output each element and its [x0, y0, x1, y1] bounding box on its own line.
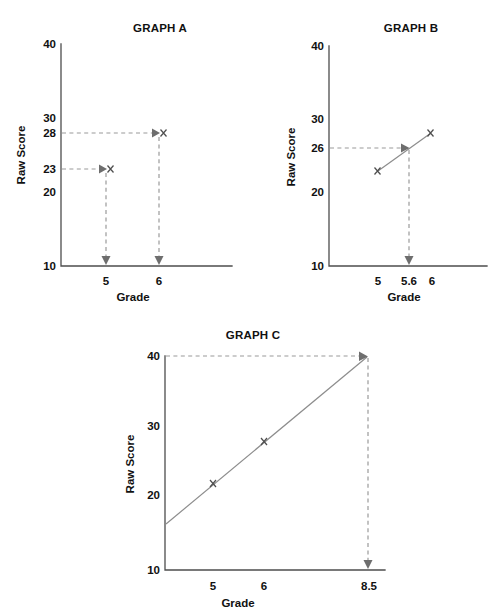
graph-a: GRAPH A Raw Score Grade 40 30 28 23 20 1…	[15, 22, 232, 303]
graph-b-marker-5-23	[375, 168, 381, 175]
graph-a-x-axis-title: Grade	[116, 291, 149, 303]
graph-a-ytick-40: 40	[43, 38, 56, 50]
graphs-canvas: GRAPH A Raw Score Grade 40 30 28 23 20 1…	[0, 0, 503, 616]
graph-c-ytick-20: 20	[147, 489, 160, 501]
graph-a-ytick-20: 20	[43, 186, 56, 198]
graph-b-ytick-40: 40	[311, 40, 324, 52]
graph-a-marker-5-23	[108, 166, 114, 173]
graph-c-y-axis-title: Raw Score	[124, 435, 136, 494]
graph-b-ytick-26: 26	[311, 142, 324, 154]
graph-b-y-axis-title: Raw Score	[285, 128, 297, 187]
graph-c-ytick-10: 10	[147, 564, 160, 576]
graph-c: GRAPH C Raw Score Grade 40 30 20 10 5 6 …	[124, 329, 385, 609]
graph-a-xtick-6: 6	[156, 275, 162, 287]
graph-b-xtick-5-6: 5.6	[401, 275, 417, 287]
graph-a-xtick-5: 5	[103, 275, 110, 287]
graph-b-xtick-5: 5	[375, 275, 382, 287]
graph-a-arrowhead-down-5	[102, 256, 111, 265]
graph-a-arrowhead-right-23	[99, 165, 107, 174]
figure-panel: GRAPH A Raw Score Grade 40 30 28 23 20 1…	[0, 0, 503, 616]
graph-a-ytick-23: 23	[43, 163, 56, 175]
graph-b-xtick-6: 6	[429, 275, 435, 287]
graph-b-arrowhead-down-5-6	[405, 256, 414, 265]
graph-c-x-axis-title: Grade	[221, 597, 254, 609]
graph-a-marker-6-28	[161, 130, 167, 137]
graph-a-arrowhead-right-28	[152, 129, 160, 138]
graph-c-title: GRAPH C	[226, 329, 280, 341]
graph-a-y-axis-title: Raw Score	[15, 126, 27, 185]
graph-c-trend-line	[166, 357, 367, 524]
graph-a-ytick-10: 10	[43, 260, 56, 272]
graph-b: GRAPH B Raw Score Grade 40 30 26 20 10 5…	[285, 22, 487, 303]
graph-b-trend-line	[378, 133, 431, 171]
graph-b-ytick-20: 20	[311, 186, 324, 198]
graph-c-axes	[165, 356, 385, 570]
graph-b-ytick-10: 10	[311, 260, 324, 272]
graph-a-ytick-28: 28	[43, 127, 56, 139]
graph-a-arrowhead-down-6	[155, 256, 164, 265]
graph-c-xtick-5: 5	[210, 580, 217, 592]
graph-b-title: GRAPH B	[384, 22, 438, 34]
graph-b-axes	[329, 46, 487, 266]
graph-a-title: GRAPH A	[133, 22, 187, 34]
graph-b-marker-6-28	[428, 130, 434, 137]
graph-c-ytick-30: 30	[147, 420, 160, 432]
graph-c-xtick-6: 6	[261, 580, 267, 592]
graph-c-arrowhead-down-8-5	[364, 560, 373, 569]
graph-a-axes	[61, 44, 232, 266]
graph-b-x-axis-title: Grade	[387, 291, 420, 303]
graph-b-ytick-30: 30	[311, 113, 324, 125]
graph-c-ytick-40: 40	[147, 350, 160, 362]
graph-a-ytick-30: 30	[43, 112, 56, 124]
graph-c-xtick-8-5: 8.5	[361, 580, 378, 592]
